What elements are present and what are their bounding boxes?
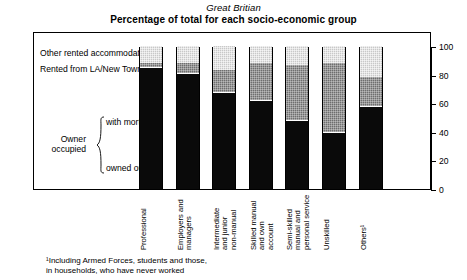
page-title: Percentage of total for each socio-econo…	[0, 14, 467, 26]
segment-owned-outright	[140, 150, 162, 189]
segment-rented-la	[140, 63, 162, 67]
footnote: ¹Including Armed Forces, students and th…	[46, 256, 207, 275]
segment-other-rented	[323, 46, 345, 63]
segment-with-mortgage	[323, 132, 345, 169]
segment-other-rented	[140, 46, 162, 63]
segment-other-rented	[213, 46, 235, 70]
bar-7	[359, 47, 383, 190]
bar-6	[322, 47, 346, 190]
y-axis-line	[431, 47, 432, 190]
segment-other-rented	[250, 46, 272, 63]
segment-owned-outright	[177, 145, 199, 189]
segment-other-rented	[286, 46, 308, 65]
region-subtitle: Great Britian	[0, 2, 467, 13]
segment-rented-la	[360, 77, 382, 106]
segment-with-mortgage	[250, 100, 272, 159]
y-tick-40	[431, 133, 436, 134]
segment-owned-outright	[213, 150, 235, 189]
segment-with-mortgage	[213, 92, 235, 151]
segment-rented-la	[286, 65, 308, 121]
segment-owned-outright	[286, 165, 308, 189]
x-label-3: Intermediate and junior non-manual	[213, 208, 238, 250]
y-tick-20	[431, 161, 436, 162]
y-tick-label-60: 60	[439, 100, 449, 109]
segment-other-rented	[360, 46, 382, 77]
title-block: Great Britian Percentage of total for ea…	[0, 2, 467, 26]
x-label-6: Unskilled	[323, 219, 331, 250]
x-label-7: Others¹	[360, 225, 368, 250]
plot-area	[34, 47, 430, 190]
segment-owned-outright	[250, 159, 272, 189]
segment-rented-la	[213, 70, 235, 91]
segment-rented-la	[250, 63, 272, 100]
bar-1	[139, 47, 163, 190]
x-label-5: Semi-skilled manual and personal service	[286, 195, 311, 250]
segment-with-mortgage	[177, 73, 199, 145]
x-label-2: Employers and managers	[177, 199, 194, 250]
segment-rented-la	[323, 63, 345, 132]
segment-with-mortgage	[286, 120, 308, 164]
chart-figure: Great Britian Percentage of total for ea…	[0, 0, 467, 280]
x-label-4: Skilled manual and own account	[250, 201, 275, 250]
segment-with-mortgage	[140, 67, 162, 150]
y-tick-80	[431, 76, 436, 77]
bar-5	[285, 47, 309, 190]
segment-owned-outright	[360, 143, 382, 189]
x-label-1: Professional	[140, 208, 148, 250]
y-tick-0	[431, 190, 436, 191]
bar-2	[176, 47, 200, 190]
segment-other-rented	[177, 46, 199, 63]
y-tick-label-40: 40	[439, 128, 449, 137]
y-tick-label-0: 0	[439, 186, 444, 195]
y-tick-60	[431, 104, 436, 105]
bar-4	[249, 47, 273, 190]
segment-owned-outright	[323, 169, 345, 189]
y-tick-100	[431, 47, 436, 48]
segment-with-mortgage	[360, 106, 382, 143]
y-tick-label-80: 80	[439, 71, 449, 80]
y-tick-label-100: 100	[439, 43, 453, 52]
y-tick-label-20: 20	[439, 157, 449, 166]
segment-rented-la	[177, 63, 199, 73]
bar-3	[212, 47, 236, 190]
